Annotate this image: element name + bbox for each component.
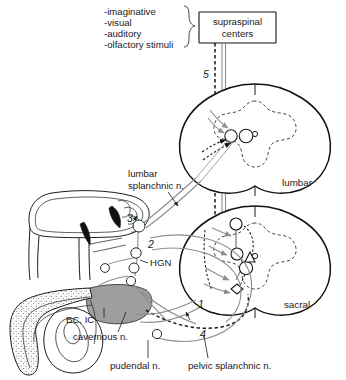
ganglion-hgn-lower	[129, 263, 139, 273]
ganglion-hgn-upper	[131, 248, 141, 258]
stimulus-item-imaginative: -imaginative	[104, 6, 156, 17]
ganglion-pelvic-plexus	[126, 276, 135, 285]
lumbar-splanchnic-label-line2: splanchnic n.	[128, 180, 184, 191]
lumbar-splanchnic-label-line1: lumbar	[128, 168, 158, 179]
sacral-neuron-soma-3	[239, 261, 252, 274]
stimulus-item-auditory: -auditory	[104, 28, 142, 39]
pathway-number-4: 4	[200, 328, 206, 340]
stimulus-item-visual: -visual	[104, 17, 132, 28]
pudendal-nerve-label: pudendal n.	[110, 360, 160, 371]
ganglion-prostatic-plexus	[101, 264, 110, 273]
bc-ic-muscle-mass	[87, 284, 152, 323]
pathway-number-5: 5	[203, 68, 209, 80]
supraspinal-centers-box: supraspinal centers	[199, 12, 276, 43]
figure-canvas: -imaginative -visual -auditory -olfactor…	[0, 0, 346, 380]
pelvic-splanchnic-label: pelvic splanchnic n.	[188, 360, 271, 371]
supraspinal-label-line2: centers	[222, 28, 254, 39]
lumbar-neuron-soma-1	[225, 130, 237, 142]
pathway-number-1: 1	[198, 298, 204, 310]
ganglion-3	[133, 220, 145, 232]
supraspinal-label-line1: supraspinal	[213, 16, 262, 27]
pathway-number-2: 2	[147, 238, 154, 250]
pathway-number-3: 3	[127, 212, 133, 224]
sacral-neuron-soma-1	[230, 218, 242, 230]
cavernous-nerve-label: cavernous n.	[73, 331, 128, 342]
ganglion-pudendal	[152, 329, 161, 338]
hgn-label: HGN	[150, 257, 171, 268]
sacral-section-label: sacral	[284, 299, 310, 310]
lumbar-neuron-soma-2	[239, 129, 253, 143]
bc-ic-label: BC, IC	[66, 314, 94, 325]
lumbar-section-label: lumbar	[282, 177, 313, 188]
stimulus-item-olfactory: -olfactory stimuli	[104, 39, 173, 50]
